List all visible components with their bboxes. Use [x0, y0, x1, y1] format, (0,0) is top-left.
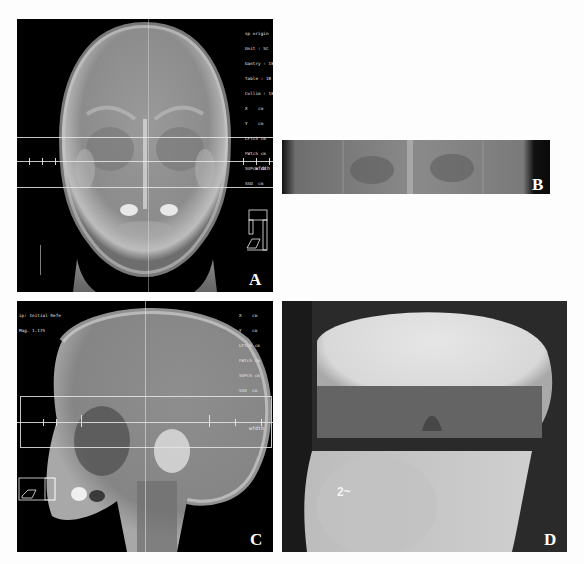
gantry-schematic-icon — [246, 208, 270, 252]
vertical-crosshair — [148, 19, 149, 292]
plan-header-text: ip: Initial Refe Mag. 1.175 — [19, 303, 61, 343]
beam-parameters-overlay: sp origin Unit : SC Gantry : 18 Table : … — [245, 21, 273, 196]
scale-tick — [81, 415, 82, 427]
panel-b-field-strip: B — [282, 140, 550, 194]
scale-tick — [42, 158, 43, 165]
beam-parameters-overlay: X cm Y cm LFtch cm FWtch cm SUPch cm SSD… — [239, 303, 260, 403]
scale-tick — [209, 415, 210, 427]
field-strip-image — [282, 140, 550, 194]
panel-d-portal-film: 2~ D — [282, 301, 567, 552]
portal-film-image: 2~ — [282, 301, 567, 552]
panel-label-b: B — [532, 176, 543, 193]
panel-label-a: A — [249, 271, 261, 288]
svg-text:2~: 2~ — [337, 485, 351, 499]
isocenter-marker — [40, 245, 41, 275]
field-top-line — [17, 137, 273, 138]
panel-label-c: C — [250, 531, 262, 548]
scale-tick — [55, 158, 56, 165]
scale-tick — [29, 158, 30, 165]
scale-tick — [56, 419, 57, 426]
panel-label-d: D — [544, 531, 556, 548]
scale-tick — [235, 419, 236, 426]
scale-label: wfdth — [249, 425, 264, 431]
scale-tick — [43, 419, 44, 426]
gantry-schematic-icon — [18, 476, 58, 506]
field-bottom-line — [17, 187, 273, 188]
panel-c-lateral-skull: ip: Initial Refe Mag. 1.175 X cm Y cm LF… — [17, 301, 273, 552]
scale-tick — [243, 158, 244, 165]
panel-a-ap-skull: wfdth sp origin Unit : SC Gantry : 18 Ta… — [17, 19, 273, 292]
skull-ap-image — [17, 19, 273, 292]
